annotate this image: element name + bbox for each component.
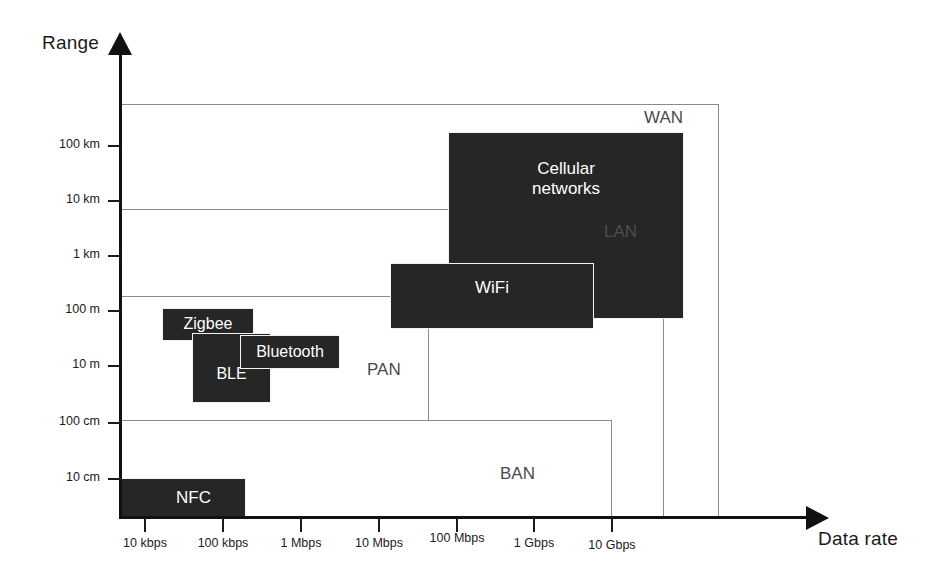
- x-tick-label-1mbps: 1 Mbps: [281, 536, 322, 550]
- y-tick-label-10cm: 10 cm: [10, 470, 100, 484]
- y-axis-line: [119, 52, 122, 518]
- y-tick-mark: [108, 422, 121, 424]
- tech-label-nfc: NFC: [142, 488, 245, 508]
- y-tick-mark: [108, 145, 121, 147]
- x-tick-label-1gbps: 1 Gbps: [514, 536, 554, 550]
- region-pan-label: PAN: [367, 360, 401, 380]
- y-tick-label-100m: 100 m: [10, 302, 100, 316]
- region-wan-label: WAN: [644, 108, 683, 128]
- y-tick-mark: [108, 365, 121, 367]
- x-tick-mark: [378, 519, 380, 532]
- x-tick-mark: [533, 519, 535, 532]
- x-tick-label-10mbps: 10 Mbps: [355, 536, 403, 550]
- y-tick-mark: [108, 255, 121, 257]
- region-lan-label: LAN: [604, 222, 637, 242]
- x-tick-mark: [144, 519, 146, 532]
- y-tick-label-10km: 10 km: [10, 192, 100, 206]
- y-axis-title: Range: [42, 32, 99, 54]
- y-axis-arrow-icon: [108, 32, 132, 55]
- tech-label-cellular: Cellular networks: [449, 159, 683, 199]
- tech-box-wifi: WiFi: [390, 263, 594, 329]
- x-tick-label-10kbps: 10 kbps: [123, 536, 167, 550]
- tech-label-zigbee: Zigbee: [178, 315, 239, 334]
- x-axis-title: Data rate: [818, 528, 898, 550]
- y-tick-label-10m: 10 m: [10, 357, 100, 371]
- y-tick-mark: [108, 310, 121, 312]
- tech-box-nfc: NFC: [119, 478, 246, 517]
- wireless-technology-range-vs-datarate-chart: WAN PAN BAN Cellular networks LAN WiFi Z…: [0, 0, 938, 583]
- x-tick-label-10gbps: 10 Gbps: [588, 538, 635, 552]
- tech-label-wifi: WiFi: [391, 278, 593, 298]
- y-tick-label-1km: 1 km: [10, 247, 100, 261]
- x-tick-label-100kbps: 100 kbps: [198, 536, 249, 550]
- tech-label-bluetooth: Bluetooth: [250, 343, 330, 362]
- region-ban-label: BAN: [500, 464, 535, 484]
- y-tick-mark: [108, 478, 121, 480]
- x-tick-mark: [611, 519, 613, 532]
- x-axis-arrow-icon: [806, 506, 829, 530]
- y-tick-label-100km: 100 km: [10, 137, 100, 151]
- x-tick-label-100mbps: 100 Mbps: [430, 531, 485, 545]
- x-tick-mark: [300, 519, 302, 532]
- tech-box-bluetooth: Bluetooth: [240, 335, 340, 369]
- y-tick-mark: [108, 200, 121, 202]
- y-tick-label-100cm: 100 cm: [10, 414, 100, 428]
- x-tick-mark: [222, 519, 224, 532]
